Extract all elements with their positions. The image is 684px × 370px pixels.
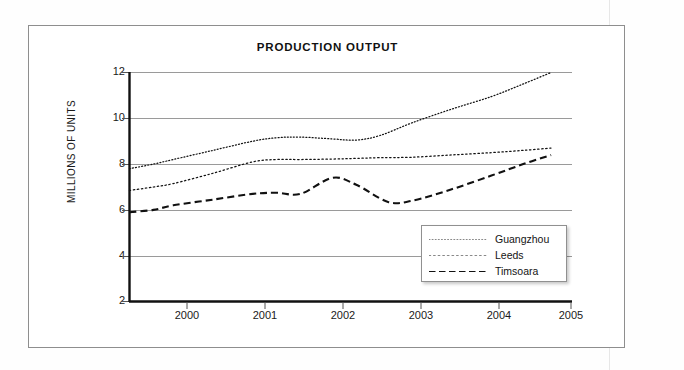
legend-swatch-timsoara — [429, 271, 487, 272]
legend-swatch-leeds — [429, 255, 487, 256]
y-tick-marks — [122, 73, 129, 302]
chart-frame: PRODUCTION OUTPUT MILLIONS OF UNITS 12 1… — [28, 25, 625, 348]
legend-label-guangzhou: Guangzhou — [495, 233, 549, 245]
legend-label-leeds: Leeds — [495, 249, 524, 261]
legend-item-timsoara: Timsoara — [422, 263, 566, 279]
legend-label-timsoara: Timsoara — [495, 265, 538, 277]
legend-item-guangzhou: Guangzhou — [422, 231, 566, 247]
plot-area — [29, 26, 626, 349]
series-line-guangzhou — [130, 73, 552, 169]
x-tick-marks — [187, 302, 571, 309]
legend-swatch-guangzhou — [429, 239, 487, 240]
legend-item-leeds: Leeds — [422, 247, 566, 263]
series-line-leeds — [130, 148, 552, 190]
page-canvas: PRODUCTION OUTPUT MILLIONS OF UNITS 12 1… — [0, 0, 684, 370]
chart-legend: Guangzhou Leeds Timsoara — [421, 225, 567, 282]
series-line-timsoara — [130, 155, 552, 212]
